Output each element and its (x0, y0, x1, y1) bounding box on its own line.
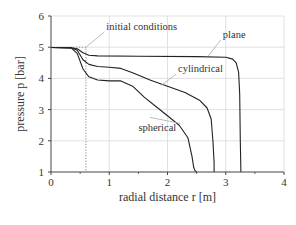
x-tick-label: 1 (107, 176, 113, 188)
annotation-cylindrical: cylindrical (178, 63, 223, 74)
y-tick-label: 4 (39, 72, 45, 84)
annotations: initial conditionsplanecylindricalspheri… (86, 21, 246, 133)
y-tick-label: 3 (39, 104, 45, 116)
x-tick-label: 4 (281, 176, 287, 188)
annotation-leader (162, 74, 176, 85)
annotation-initial-conditions: initial conditions (106, 21, 177, 32)
annotation-leader (208, 40, 221, 56)
x-tick-label: 2 (165, 176, 171, 188)
annotation-leader (86, 32, 104, 47)
y-axis-label: pressure p [bar] (13, 56, 27, 131)
y-tick-label: 1 (39, 166, 45, 178)
x-axis-label: radial distance r [m] (119, 190, 216, 204)
y-tick-label: 6 (39, 10, 45, 22)
annotation-spherical: spherical (138, 122, 176, 133)
y-tick-label: 5 (39, 41, 45, 53)
annotation-plane: plane (223, 29, 246, 40)
axes: 01234123456 (39, 10, 288, 188)
y-tick-label: 2 (39, 135, 45, 147)
x-tick-label: 3 (223, 176, 229, 188)
x-tick-label: 0 (48, 176, 54, 188)
pressure-vs-radius-chart: 01234123456 initial conditionsplanecylin… (0, 0, 296, 225)
